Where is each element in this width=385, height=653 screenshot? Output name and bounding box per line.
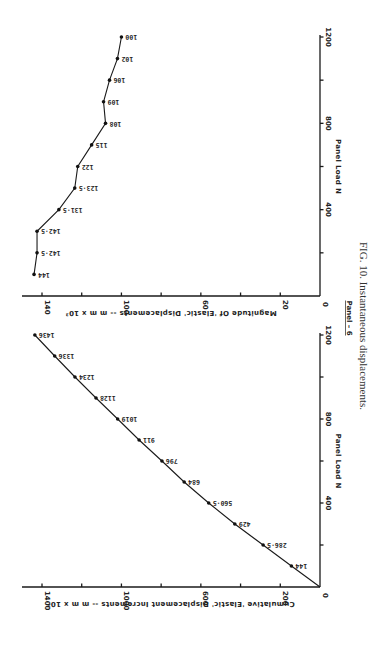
data-point — [57, 208, 61, 212]
data-point-label: 1336 — [59, 352, 75, 360]
data-point-label: 115 — [96, 141, 108, 149]
data-point-label: 144 — [38, 271, 50, 279]
data-point-label: 796 — [166, 457, 178, 465]
chart-magnitude-elastic-displacements: 206010014004008001200Panel Load NMagnitu… — [22, 27, 342, 317]
data-point — [120, 35, 124, 39]
data-point — [207, 501, 211, 505]
data-point — [94, 396, 98, 400]
load-axis-title: Panel Load N — [334, 139, 342, 194]
data-point — [108, 78, 112, 82]
value-tick-label: 20 — [281, 300, 289, 310]
data-point-label: 100 — [125, 33, 137, 41]
data-point — [137, 438, 141, 442]
load-tick-label: 800 — [324, 412, 332, 427]
load-tick-label: 400 — [324, 202, 332, 217]
data-point-label: 1436 — [39, 331, 55, 339]
data-point-label: 144 — [295, 562, 307, 570]
value-tick-label: 60 — [201, 300, 209, 310]
data-point-label: 123·5 — [79, 184, 99, 192]
data-series-line — [34, 37, 121, 274]
data-point-label: 1234 — [79, 373, 95, 381]
data-point — [35, 251, 39, 255]
data-point-label: 131·5 — [63, 206, 83, 214]
data-point-label: 102 — [121, 55, 133, 63]
data-point-label: 109 — [107, 98, 119, 106]
data-point — [76, 165, 80, 169]
data-point — [33, 333, 37, 337]
load-tick-label: 400 — [324, 496, 332, 511]
data-point — [90, 143, 94, 147]
data-point — [73, 186, 77, 190]
chart-cumulative-elastic-displacements: 2006001000140004008001200Panel Load NCum… — [22, 325, 342, 610]
data-point-label: 122 — [82, 163, 94, 171]
data-point-label: 142·5 — [41, 227, 61, 235]
load-tick-label: 1200 — [324, 325, 332, 345]
data-point — [182, 480, 186, 484]
data-point-label: 286·5 — [267, 541, 287, 549]
data-point — [233, 522, 237, 526]
data-point-label: 429 — [239, 520, 251, 528]
data-point-label: 684 — [188, 478, 200, 486]
data-point-label: 911 — [143, 436, 155, 444]
data-point — [73, 375, 77, 379]
data-point-label: 1019 — [122, 415, 138, 423]
figure-caption: FIG. 10. Instantaneous displacements. — [358, 242, 370, 410]
value-tick-label: 140 — [43, 300, 51, 315]
data-point — [53, 354, 57, 358]
data-point — [116, 57, 120, 61]
data-point-label: 106 — [113, 76, 125, 84]
load-tick-label: 1200 — [324, 27, 332, 47]
data-point-label: 108 — [109, 120, 121, 128]
data-point — [32, 273, 36, 277]
data-point-label: 1128 — [100, 394, 116, 402]
data-point — [160, 459, 164, 463]
load-tick-label: 800 — [324, 116, 332, 131]
data-point — [35, 229, 39, 233]
data-point — [104, 122, 108, 126]
origin-tick-label: 0 — [321, 593, 329, 598]
data-point — [290, 564, 294, 568]
origin-tick-label: 0 — [321, 302, 329, 307]
data-point-label: 142·5 — [41, 249, 61, 257]
data-point — [102, 100, 106, 104]
figure: 206010014004008001200Panel Load NMagnitu… — [0, 0, 385, 653]
value-axis-title: Cumulative 'Elastic' Displacement Increm… — [47, 600, 294, 608]
value-axis-title: Magnitude Of 'Elastic' Displacements -- … — [65, 309, 276, 317]
load-axis-title: Panel Load N — [334, 433, 342, 488]
data-point-label: 560·5 — [213, 499, 233, 507]
data-point — [261, 543, 265, 547]
panel-label: Panel – 6 — [345, 300, 353, 335]
data-point — [116, 417, 120, 421]
